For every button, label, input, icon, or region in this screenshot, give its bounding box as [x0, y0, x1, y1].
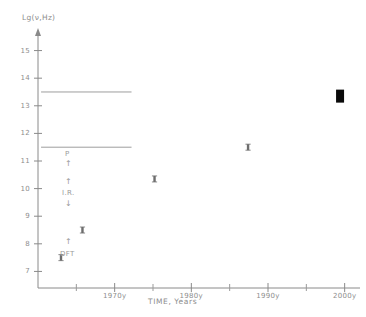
- band-arrow-ir-up: ↑: [65, 178, 72, 186]
- y-axis-arrow-icon: [35, 28, 41, 36]
- y-tick-label: 10: [8, 185, 30, 193]
- band-label-dft: DFT: [60, 250, 75, 258]
- y-tick-label: 11: [8, 157, 30, 165]
- x-tick-label: 2000y: [325, 292, 365, 300]
- scatter-plot-canvas: [0, 0, 366, 317]
- x-tick-label: 1970y: [95, 292, 135, 300]
- axis-group: [35, 28, 360, 288]
- divider-lines: [41, 92, 131, 147]
- data-point-marker: [153, 176, 155, 182]
- y-tick-label: 8: [8, 240, 30, 248]
- chart-container: Lg(ν,Hz) TIME, Years 789101112131415 197…: [0, 0, 366, 317]
- y-tick-label: 9: [8, 212, 30, 220]
- data-point-highlight: [336, 90, 344, 103]
- x-tick-label: 1990y: [248, 292, 288, 300]
- y-axis-title: Lg(ν,Hz): [22, 14, 55, 22]
- y-tick-label: 13: [8, 102, 30, 110]
- data-point-marker: [247, 144, 249, 150]
- band-label-p: P: [65, 150, 70, 158]
- y-tick-label: 15: [8, 47, 30, 55]
- y-tick-label: 7: [8, 267, 30, 275]
- band-arrow-ir-down: ↓: [65, 200, 72, 208]
- x-tick-label: 1980y: [171, 292, 211, 300]
- data-point-marker: [81, 227, 83, 233]
- y-tick-label: 12: [8, 129, 30, 137]
- band-label-ir: I.R.: [62, 189, 75, 197]
- data-point-markers: [58, 90, 344, 261]
- band-arrow-p-up: ↑: [65, 160, 72, 168]
- y-tick-label: 14: [8, 74, 30, 82]
- band-arrow-dft-up: ↑: [65, 238, 72, 246]
